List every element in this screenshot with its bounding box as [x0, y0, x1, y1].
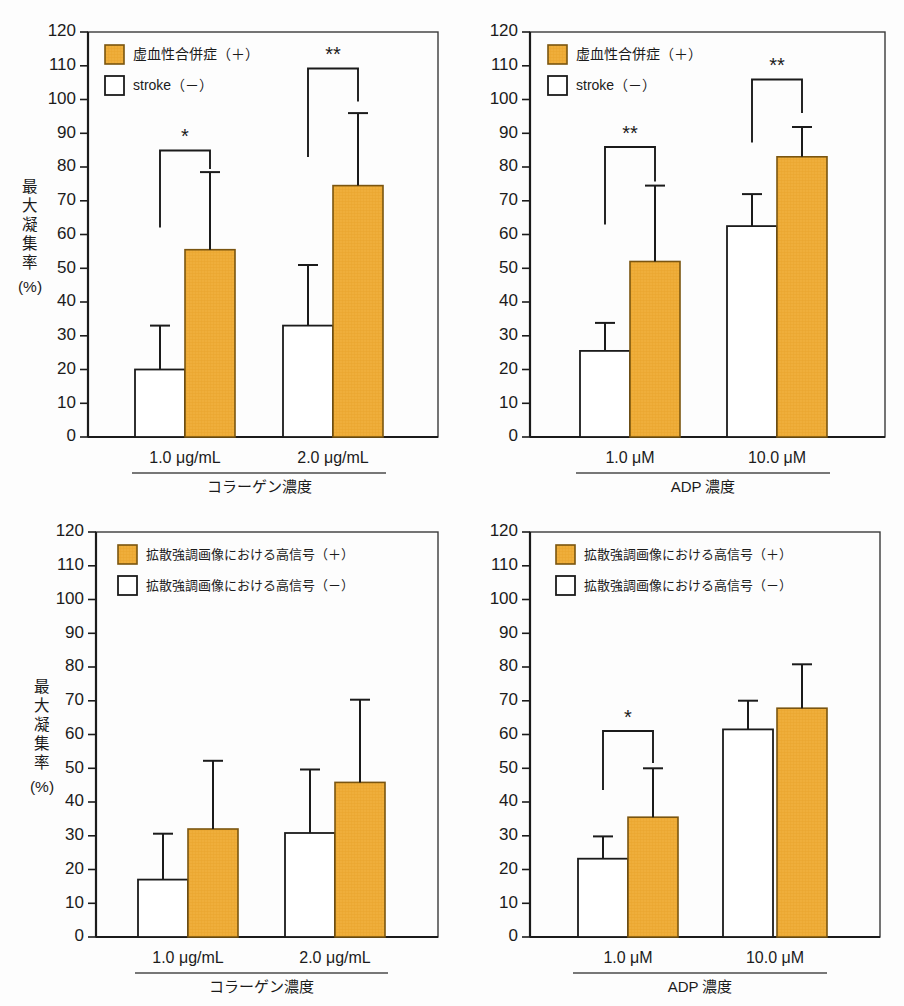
chart-svg-bottom-right: 0 10 20 30 40 50 60 70 80 90 100 110 120…	[460, 500, 904, 1006]
y-tick-label: 20	[499, 859, 518, 878]
legend-label-white: 拡散強調画像における高信号（－）	[146, 578, 354, 593]
y-axis-ticks	[522, 532, 530, 937]
legend-label-orange: 拡散強調画像における高信号（＋）	[584, 547, 792, 562]
bar-white	[285, 833, 335, 937]
y-tick-label: 0	[509, 926, 518, 945]
y-axis-title-char: 最	[22, 178, 38, 195]
y-tick-label: 100	[490, 89, 518, 108]
y-tick-label: 50	[57, 258, 76, 277]
y-tick-label: 40	[499, 291, 518, 310]
bar-orange	[185, 250, 235, 437]
x-axis-title: ADP 濃度	[671, 478, 736, 495]
y-tick-label: 90	[65, 623, 84, 642]
y-tick-label: 120	[56, 521, 84, 540]
category-label-0: 1.0 μg/mL	[152, 949, 224, 966]
error-bar-white	[150, 326, 170, 370]
bar-white	[723, 729, 773, 937]
y-tick-label: 0	[67, 426, 76, 445]
significance-bracket	[603, 731, 653, 790]
significance-mark: **	[769, 54, 785, 76]
y-axis-tick-labels: 0 10 20 30 40 50 60 70 80 90 100 110 120	[56, 521, 84, 945]
y-tick-label: 120	[48, 21, 76, 40]
y-tick-label: 70	[499, 190, 518, 209]
y-tick-label: 40	[65, 791, 84, 810]
chart-svg-top-right: 0 10 20 30 40 50 60 70 80 90 100 110 120…	[460, 0, 904, 500]
x-axis-title: コラーゲン濃度	[209, 978, 314, 995]
y-tick-label: 40	[57, 291, 76, 310]
legend-swatch-white	[556, 576, 575, 595]
y-axis-ticks	[80, 32, 88, 437]
bar-group-1: **	[580, 122, 680, 437]
y-tick-label: 60	[499, 724, 518, 743]
error-bar-white	[595, 323, 615, 351]
bar-group-2	[285, 700, 385, 937]
chart-svg-top-left: 0 10 20 30 40 50 60 70 80 90 100 110 120…	[0, 0, 460, 500]
legend-swatch-white	[105, 76, 124, 95]
y-axis-title: 最 大 凝 集 率 (%)	[18, 178, 42, 295]
y-tick-label: 30	[499, 825, 518, 844]
error-bar-orange	[203, 761, 223, 829]
category-label-1: 10.0 μM	[746, 949, 804, 966]
significance-mark: **	[325, 43, 341, 65]
legend: 虚血性合併症（＋） stroke（－）	[105, 45, 259, 95]
bar-group-2: **	[727, 54, 827, 437]
legend-swatch-white	[118, 576, 137, 595]
y-tick-label: 50	[65, 758, 84, 777]
bar-white	[138, 880, 188, 937]
y-tick-label: 100	[48, 89, 76, 108]
legend-swatch-orange	[118, 545, 137, 564]
category-label-0: 1.0 μg/mL	[149, 449, 221, 466]
legend-label-white: stroke（－）	[133, 77, 213, 93]
y-tick-label: 80	[57, 156, 76, 175]
bar-orange	[777, 157, 827, 437]
y-tick-label: 30	[65, 825, 84, 844]
bar-group-1: *	[578, 706, 678, 937]
y-axis-title-char: 率	[34, 754, 50, 771]
significance-mark: *	[624, 706, 632, 728]
y-axis-title-char: 凝	[22, 216, 38, 233]
y-axis-title-char: 最	[34, 678, 50, 695]
y-tick-label: 80	[499, 156, 518, 175]
legend-label-orange: 虚血性合併症（＋）	[576, 46, 702, 62]
chart-panel-top-right: 0 10 20 30 40 50 60 70 80 90 100 110 120…	[460, 0, 904, 500]
significance-mark: **	[622, 122, 638, 144]
y-tick-label: 110	[491, 55, 518, 74]
legend-swatch-orange	[556, 545, 575, 564]
error-bar-orange	[348, 113, 368, 186]
y-tick-label: 100	[490, 589, 518, 608]
y-tick-label: 70	[57, 190, 76, 209]
y-axis-title-unit: (%)	[18, 278, 42, 295]
significance-mark: *	[181, 125, 189, 147]
bar-orange	[628, 817, 678, 937]
error-bar-white	[153, 834, 173, 880]
bar-orange	[335, 782, 385, 937]
legend: 拡散強調画像における高信号（＋） 拡散強調画像における高信号（－）	[118, 545, 354, 595]
y-tick-label: 10	[65, 893, 84, 912]
chart-panel-top-left: 0 10 20 30 40 50 60 70 80 90 100 110 120…	[0, 0, 460, 500]
y-tick-label: 110	[491, 555, 518, 574]
error-bar-orange	[792, 664, 812, 708]
legend-swatch-orange	[105, 45, 124, 64]
y-tick-label: 20	[57, 359, 76, 378]
y-tick-label: 110	[57, 555, 84, 574]
y-axis-title-char: 凝	[34, 716, 50, 733]
bar-white	[580, 351, 630, 437]
bar-group-1: *	[135, 125, 235, 437]
bar-orange	[333, 186, 383, 437]
category-label-1: 2.0 μg/mL	[297, 449, 369, 466]
y-tick-label: 80	[499, 656, 518, 675]
y-tick-label: 120	[490, 521, 518, 540]
category-label-0: 1.0 μM	[603, 949, 652, 966]
y-tick-label: 70	[65, 690, 84, 709]
error-bar-white	[742, 194, 762, 226]
y-tick-label: 40	[499, 791, 518, 810]
y-tick-label: 70	[499, 690, 518, 709]
error-bar-orange	[643, 768, 663, 817]
y-axis-title-unit: (%)	[30, 778, 54, 795]
error-bar-orange	[350, 700, 370, 783]
y-tick-label: 50	[499, 758, 518, 777]
error-bar-white	[593, 836, 613, 858]
y-tick-label: 30	[499, 325, 518, 344]
y-tick-label: 50	[499, 258, 518, 277]
bar-orange	[188, 829, 238, 937]
